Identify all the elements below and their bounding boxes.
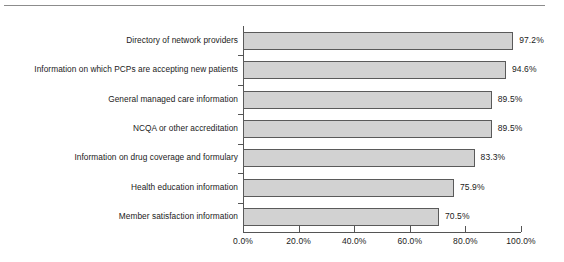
value-tick <box>243 226 244 232</box>
category-label: Information on drug coverage and formula… <box>74 152 238 162</box>
bar-value-label: 89.5% <box>498 123 523 133</box>
value-axis-line <box>243 232 521 233</box>
value-tick-label: 100.0% <box>506 236 535 246</box>
value-tick <box>354 226 355 232</box>
category-tick <box>238 114 243 115</box>
category-label: Health education information <box>131 182 238 192</box>
value-tick <box>299 226 300 232</box>
bar-value-label: 97.2% <box>519 35 544 45</box>
bar <box>243 32 513 50</box>
category-label: NCQA or other accreditation <box>133 123 238 133</box>
value-tick-label: 60.0% <box>397 236 422 246</box>
category-tick <box>238 173 243 174</box>
bar <box>243 61 506 79</box>
bar-value-label: 89.5% <box>498 94 523 104</box>
chart-figure: Directory of network providersInformatio… <box>0 0 564 262</box>
value-tick <box>465 226 466 232</box>
category-tick <box>238 55 243 56</box>
bar-value-label: 75.9% <box>460 182 485 192</box>
category-tick <box>238 144 243 145</box>
category-label: Information on which PCPs are accepting … <box>34 64 238 74</box>
category-tick <box>238 85 243 86</box>
category-label: General managed care information <box>108 94 238 104</box>
bar <box>243 149 475 167</box>
bar-value-label: 94.6% <box>512 64 537 74</box>
plot-area: 0.0%20.0%40.0%60.0%80.0%100.0% 97.2%94.6… <box>243 26 521 232</box>
bar <box>243 208 439 226</box>
value-tick-label: 40.0% <box>342 236 367 246</box>
bar-value-label: 83.3% <box>481 152 506 162</box>
category-tick <box>238 203 243 204</box>
bar <box>243 120 492 138</box>
header-divider-rule <box>4 5 545 6</box>
value-tick-label: 80.0% <box>453 236 478 246</box>
bar <box>243 179 454 197</box>
value-tick-label: 20.0% <box>286 236 311 246</box>
category-axis-labels: Directory of network providersInformatio… <box>0 26 238 232</box>
value-tick <box>521 226 522 232</box>
value-tick <box>410 226 411 232</box>
category-label: Directory of network providers <box>126 35 238 45</box>
bar <box>243 91 492 109</box>
value-tick-label: 0.0% <box>233 236 253 246</box>
bar-value-label: 70.5% <box>445 211 470 221</box>
category-label: Member satisfaction information <box>119 211 238 221</box>
